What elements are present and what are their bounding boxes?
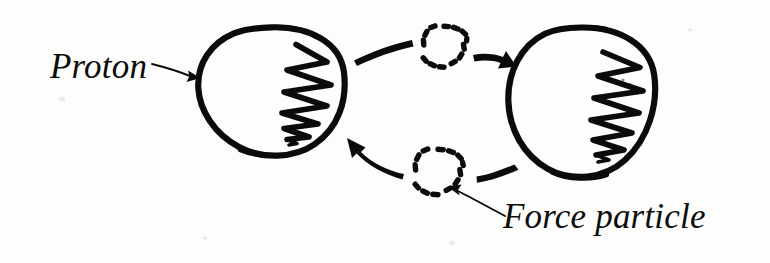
proton-right-circle — [508, 27, 655, 178]
proton-label-group: Proton — [49, 47, 201, 86]
diagram-canvas: Proton Force particle — [0, 0, 770, 263]
force-particle-label-group: Force particle — [448, 185, 706, 237]
proton-label: Proton — [49, 47, 147, 86]
force-particle-top — [423, 26, 467, 67]
proton-left-circle — [198, 27, 344, 156]
proton-force-particle-diagram: Proton Force particle — [0, 0, 770, 263]
exchange-arrow-bottom — [347, 138, 519, 183]
force-particle-label: Force particle — [502, 197, 706, 236]
proton-left-scribble — [282, 45, 331, 146]
